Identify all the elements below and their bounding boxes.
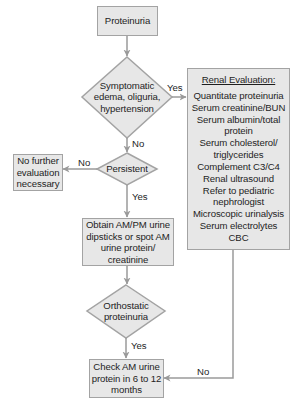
renal-item-refer: Refer to pediatricnephrologist [203,185,274,208]
check-line-2: protein in 6 to 12 [92,373,162,385]
orthostatic-line-2: proteinuria [104,311,148,323]
renal-item-albumin: Serum albumin/totalprotein [197,114,280,137]
renal-evaluation-box: Renal Evaluation: Quantitate proteinuria… [187,68,290,250]
renal-item-electrolytes: Serum electrolytes [200,220,278,232]
renal-item-quantitate: Quantitate proteinuria [193,90,283,102]
edge-label-symptomatic-yes: Yes [167,82,183,93]
edge-label-persistent-no: No [78,157,90,168]
no-further-evaluation-box: No further evaluation necessary [13,154,63,191]
renal-item-cholesterol: Serum cholesterol/triglycerides [199,137,277,160]
renal-item-ultrasound: Renal ultrasound [203,173,274,185]
renal-item-urinalysis: Microscopic urinalysis [193,208,284,220]
renal-item-complement: Complement C3/C4 [197,161,280,173]
renal-evaluation-title: Renal Evaluation: [202,74,276,86]
no-further-line-1: No further [17,155,59,167]
obtain-samples-box: Obtain AM/PM urine dipsticks or spot AM … [82,218,174,266]
edge-label-orthostatic-yes: Yes [131,340,147,351]
edge-label-persistent-yes: Yes [132,191,148,202]
decision-orthostatic-label: Orthostatic proteinuria [92,299,160,323]
edge-label-symptomatic-no: No [132,138,144,149]
start-node-proteinuria: Proteinuria [97,6,158,36]
obtain-line-3: urine protein/ [101,242,156,254]
check-line-3: months [111,384,142,396]
obtain-line-4: creatinine [108,254,149,266]
edge-label-orthostatic-no: No [197,366,209,377]
check-am-urine-box: Check AM urine protein in 6 to 12 months [89,359,164,398]
obtain-line-1: Obtain AM/PM urine [86,219,170,231]
check-line-1: Check AM urine [93,361,159,373]
decision-symptomatic-line-1: Symptomatic [100,80,154,92]
no-further-line-2: evaluation [17,167,60,179]
decision-symptomatic-line-2: edema, oliguria, [94,91,161,103]
decision-symptomatic-label: Symptomatic edema, oliguria, hypertensio… [87,79,167,115]
decision-symptomatic-line-3: hypertension [100,103,154,115]
decision-persistent-label: Persistent [100,163,154,175]
no-further-line-3: necessary [17,178,60,190]
renal-item-creatinine: Serum creatinine/BUN [192,102,285,114]
orthostatic-line-1: Orthostatic [103,300,148,312]
renal-item-cbc: CBC [229,232,249,244]
obtain-line-2: dipsticks or spot AM [86,231,169,243]
arrow-orthostatic-no [164,249,233,378]
start-node-label: Proteinuria [105,15,150,27]
